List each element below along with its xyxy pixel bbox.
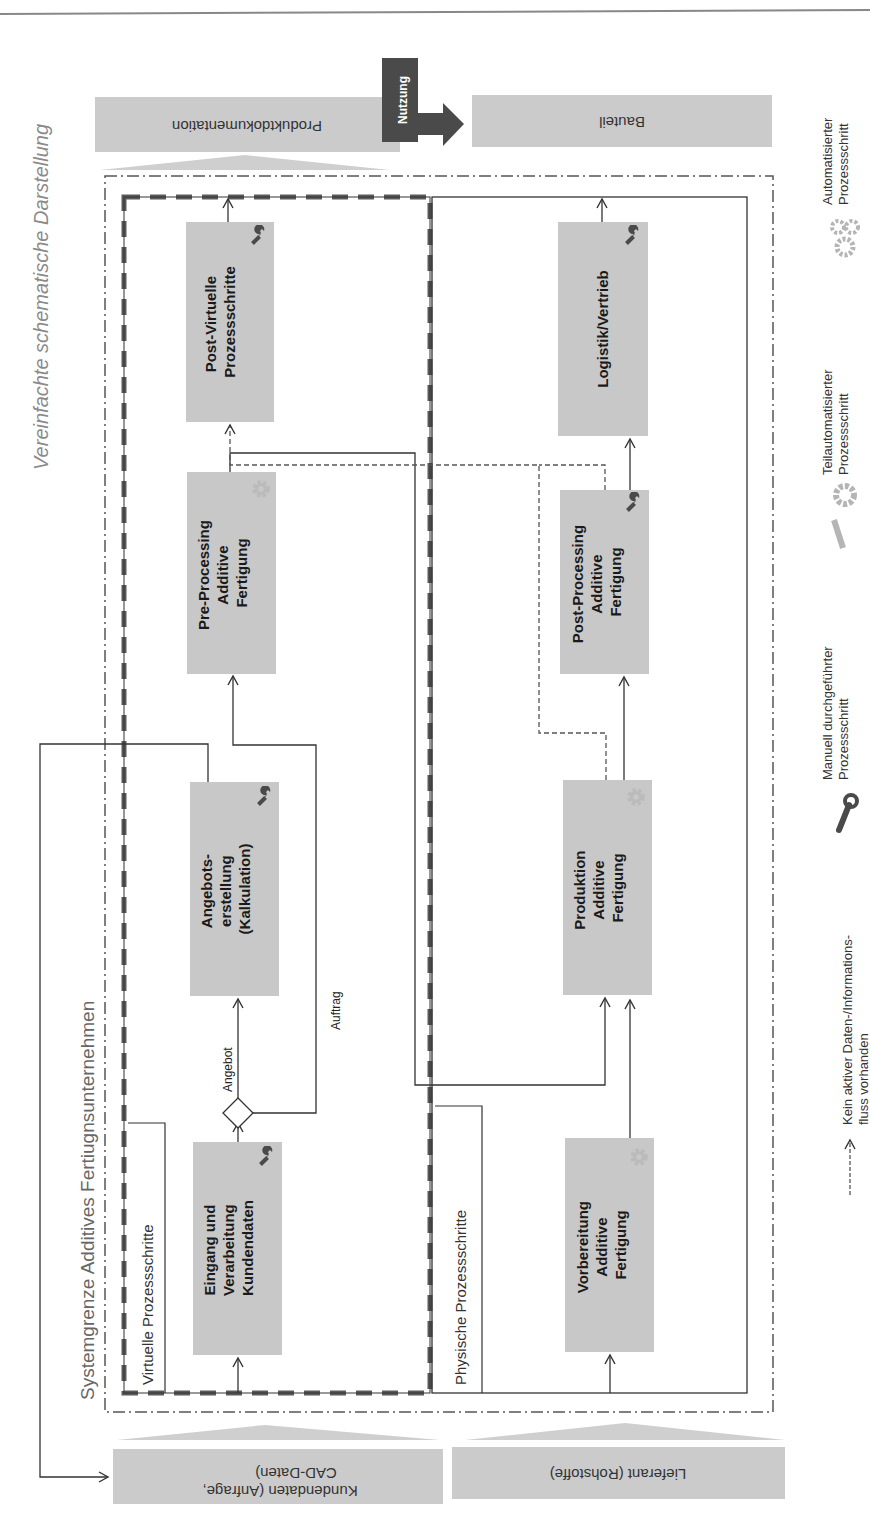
step-postvirtual[interactable]: Post-Virtuelle Prozessschritte [186, 222, 274, 422]
usage-arrow: Nutzung [382, 58, 464, 146]
step-postprocessing-line2: Additive [588, 554, 605, 613]
step-postprocessing[interactable]: Post-Processing Additive Fertigung [560, 490, 649, 674]
system-boundary-label: Systemgrenze Additives Fertiugnsunterneh… [77, 1001, 98, 1400]
part-label: Bauteil [599, 114, 645, 131]
step-produktion-line2: Additive [590, 860, 607, 919]
legend-no-flow: Kein aktiver Daten-/Informations- fluss … [840, 931, 870, 1195]
step-preprocessing-line2: Additive [214, 545, 231, 604]
wrench-icon [839, 805, 849, 830]
step-vorbereitung[interactable]: Vorbereitung Additive Fertigung [565, 1138, 654, 1352]
supplier-label: Lieferant (Rohstoffe) [550, 1466, 686, 1483]
step-produktion-line3: Fertigung [609, 853, 626, 922]
step-postvirtual-line2: Prozessschritte [221, 266, 238, 378]
usage-label: Nutzung [396, 76, 410, 124]
physical-lane-label-box: Physische Prozessschritte [435, 1106, 482, 1393]
svg-text:Manuell durchgeführter: Manuell durchgeführter Prozessschritt [820, 643, 851, 780]
product-documentation-label: Produktdokumentation [172, 118, 322, 135]
svg-text:Eingang und Verarbeitung: Eingang und Verarbeitung Kundendaten [201, 1200, 256, 1296]
step-produktion-line1: Produktion [571, 851, 588, 930]
legend-manual-line2: Prozessschritt [836, 698, 851, 780]
gears-icon [832, 221, 844, 233]
gear-icon [836, 486, 854, 504]
legend-semi-line1: Teilautomatisierter [820, 369, 835, 475]
step-angebot-line1: Angebots- [198, 854, 215, 928]
funnel-bottom-right [465, 1423, 785, 1440]
legend-semi-line2: Prozessschritt [836, 393, 851, 475]
top-rule [0, 10, 870, 14]
wrench-icon [834, 520, 843, 548]
customer-data-box: Kundendaten (Anfrage, CAD-Daten) [113, 1449, 443, 1504]
svg-text:Teilautomatisierter Pr: Teilautomatisierter Prozessschritt [820, 366, 851, 475]
legend-automated-line1: Automatisierter [820, 117, 835, 205]
step-produktion[interactable]: Produktion Additive Fertigung [563, 780, 652, 995]
step-logistik-label: Logistik/Vertrieb [594, 270, 611, 388]
virtual-lane-label-box: Virtuelle Prozessschritte [128, 1123, 165, 1393]
diagram-title: Vereinfachte schematische Darstellung [30, 124, 52, 470]
step-vorbereitung-line1: Vorbereitung [574, 1201, 591, 1293]
step-eingang-line3: Kundendaten [239, 1200, 256, 1296]
legend-noflow-line2: fluss vorhanden [856, 1033, 870, 1125]
customer-data-line1: Kundendaten (Anfrage, [203, 1483, 358, 1500]
legend-automated-line2: Prozessschritt [836, 123, 851, 205]
funnel-top-left [100, 155, 390, 170]
step-eingang[interactable]: Eingang und Verarbeitung Kundendaten [193, 1142, 282, 1355]
physical-lane-label: Physische Prozessschritte [452, 1210, 469, 1385]
no-flow-lines [230, 425, 606, 780]
step-angebot[interactable]: Angebots- erstellung (Kalkulation) [190, 782, 279, 996]
legend-automated: Automatisierter Prozessschritt [820, 114, 858, 255]
step-angebot-line3: (Kalkulation) [236, 844, 253, 935]
virtual-lane-label: Virtuelle Prozessschritte [139, 1224, 156, 1385]
legend-semi-automated: Teilautomatisierter Prozessschritt [820, 366, 854, 548]
step-angebot-line2: erstellung [217, 855, 234, 927]
step-vorbereitung-line3: Fertigung [612, 1210, 629, 1279]
step-logistik[interactable]: Logistik/Vertrieb [558, 222, 648, 436]
step-eingang-line1: Eingang und [201, 1205, 218, 1296]
step-preprocessing-line1: Pre-Processing [195, 520, 212, 630]
legend: Automatisierter Prozessschritt Teilautom… [820, 114, 870, 1195]
svg-text:Produktion Additive: Produktion Additive Fertigung [571, 846, 626, 929]
step-postprocessing-line3: Fertigung [607, 547, 624, 616]
customer-data-line2: CAD-Daten) [255, 1465, 337, 1482]
process-diagram: Vereinfachte schematische Darstellung Pr… [0, 0, 870, 1522]
part-box: Bauteil [472, 95, 772, 147]
flow-label-angebot: Angebot [221, 1047, 235, 1092]
legend-manual-line1: Manuell durchgeführter [820, 646, 835, 780]
product-documentation-box: Produktdokumentation [95, 97, 400, 152]
step-preprocessing-line3: Fertigung [233, 538, 250, 607]
svg-text:Kein aktiver Daten-/Informatio: Kein aktiver Daten-/Informations- fluss … [840, 931, 870, 1125]
step-preprocessing[interactable]: Pre-Processing Additive Fertigung [187, 472, 276, 674]
step-eingang-line2: Verarbeitung [220, 1204, 237, 1296]
supplier-box: Lieferant (Rohstoffe) [452, 1447, 785, 1499]
step-postvirtual-line1: Post-Virtuelle [202, 276, 219, 372]
legend-noflow-line1: Kein aktiver Daten-/Informations- [840, 935, 855, 1125]
svg-text:Automatisierter Prozes: Automatisierter Prozessschritt [820, 114, 851, 205]
flow-label-auftrag: Auftrag [329, 991, 343, 1030]
funnel-bottom-left [117, 1425, 440, 1440]
legend-manual: Manuell durchgeführter Prozessschritt [820, 643, 857, 830]
step-postprocessing-line1: Post-Processing [569, 525, 586, 643]
svg-text:Angebots- erstellung: Angebots- erstellung (Kalkulation) [198, 844, 253, 935]
step-vorbereitung-line2: Additive [593, 1217, 610, 1276]
